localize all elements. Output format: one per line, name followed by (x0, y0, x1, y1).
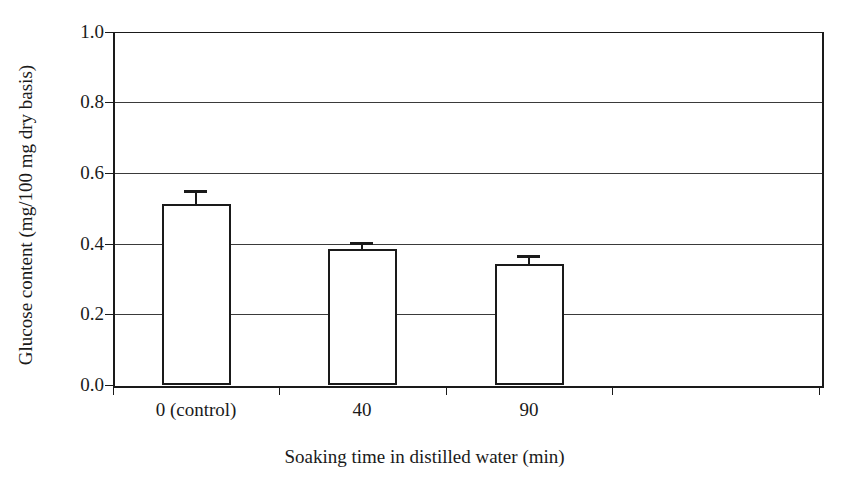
x-tick-label-40: 40 (292, 399, 432, 421)
bar-40[interactable] (328, 249, 397, 385)
y-tick-label-1.0: 1.0 (60, 22, 104, 41)
y-tick-mark-0.6 (105, 173, 113, 174)
bar-chart-figure: Glucose content (mg/100 mg dry basis) 1.… (0, 0, 849, 489)
y-tick-mark-0.0 (105, 385, 113, 386)
x-tick-mark-3 (612, 386, 613, 395)
y-tick-mark-0.4 (105, 244, 113, 245)
y-tick-mark-0.8 (105, 102, 113, 103)
bar-90[interactable] (495, 264, 564, 385)
error-bar-cap-90 (517, 255, 540, 258)
y-tick-label-0.8: 0.8 (60, 92, 104, 111)
x-tick-label-90: 90 (459, 399, 599, 421)
y-tick-label-0.6: 0.6 (60, 163, 104, 182)
x-tick-mark-start (113, 386, 114, 395)
y-tick-label-0.0: 0.0 (60, 375, 104, 394)
gridline-0.6 (115, 173, 822, 174)
y-tick-mark-1.0 (105, 32, 113, 33)
x-tick-mark-1 (279, 386, 280, 395)
y-tick-mark-0.2 (105, 314, 113, 315)
y-axis-title-container: Glucose content (mg/100 mg dry basis) (6, 0, 46, 430)
y-tick-label-0.4: 0.4 (60, 234, 104, 253)
y-tick-label-0.2: 0.2 (60, 304, 104, 323)
y-axis-title: Glucose content (mg/100 mg dry basis) (6, 0, 46, 430)
x-tick-label-0-control: 0 (control) (126, 399, 266, 421)
x-tick-mark-2 (446, 386, 447, 395)
bar-0-control[interactable] (162, 204, 231, 385)
error-bar-cap-0-control (184, 190, 207, 193)
gridline-0.8 (115, 102, 822, 103)
x-tick-mark-end (819, 386, 820, 395)
error-bar-cap-40 (350, 242, 373, 245)
x-axis-title: Soaking time in distilled water (min) (0, 446, 849, 468)
